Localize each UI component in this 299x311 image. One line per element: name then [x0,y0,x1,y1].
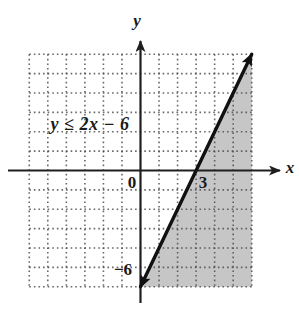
inequality-graph-figure: y x 0 3 −6 y ≤ 2x − 6 [0,0,299,311]
x-intercept-label: 3 [199,173,208,192]
inequality-label: y ≤ 2x − 6 [49,114,130,134]
origin-label: 0 [128,173,137,192]
plot-svg: y x 0 3 −6 y ≤ 2x − 6 [0,0,299,311]
y-intercept-label: −6 [114,260,132,279]
y-axis-label: y [131,11,141,30]
x-axis-label: x [285,158,295,177]
